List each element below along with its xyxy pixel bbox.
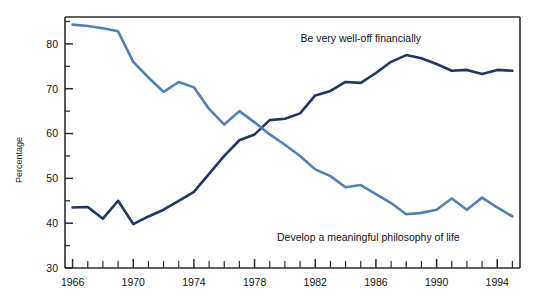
x-tick-label: 1966 [61, 276, 85, 288]
x-axis-tick-labels: 19661970197419781982198619901994 [61, 276, 509, 288]
y-tick-label: 60 [46, 127, 58, 139]
y-axis-tick-labels: 304050607080 [46, 38, 58, 274]
x-tick-label: 1974 [182, 276, 206, 288]
x-tick-label: 1994 [486, 276, 510, 288]
x-tick-label: 1970 [122, 276, 146, 288]
y-tick-label: 50 [46, 172, 58, 184]
y-tick-label: 40 [46, 217, 58, 229]
x-tick-label: 1978 [243, 276, 267, 288]
y-tick-label: 80 [46, 38, 58, 50]
x-tick-label: 1990 [425, 276, 449, 288]
annotation-financial: Be very well-off financially [300, 32, 421, 44]
x-tick-label: 1982 [304, 276, 328, 288]
x-tick-label: 1986 [364, 276, 388, 288]
line-chart: 304050607080 196619701974197819821986199… [0, 0, 547, 308]
y-axis-title: Percentage [14, 137, 24, 183]
annotation-philosophy: Develop a meaningful philosophy of life [277, 231, 460, 243]
chart-container: 304050607080 196619701974197819821986199… [0, 0, 547, 308]
y-tick-label: 70 [46, 83, 58, 95]
y-tick-label: 30 [46, 262, 58, 274]
